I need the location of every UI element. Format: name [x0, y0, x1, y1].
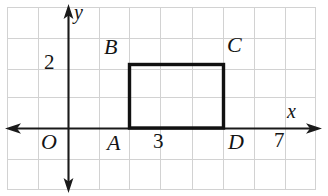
- point-label-c: C: [227, 34, 242, 56]
- origin-label: O: [41, 131, 57, 153]
- y-axis-label: y: [74, 2, 83, 22]
- x-tick-label-3: 3: [153, 131, 164, 152]
- point-label-d: D: [228, 131, 244, 153]
- y-tick-label-2: 2: [44, 52, 55, 73]
- graph-canvas: [0, 0, 328, 196]
- x-axis-label: x: [287, 101, 296, 121]
- point-label-b: B: [104, 36, 117, 58]
- point-label-a: A: [107, 132, 120, 154]
- coordinate-grid-figure: y x 2 B C O A 3 D 7: [0, 0, 328, 196]
- x-tick-label-7: 7: [274, 130, 285, 151]
